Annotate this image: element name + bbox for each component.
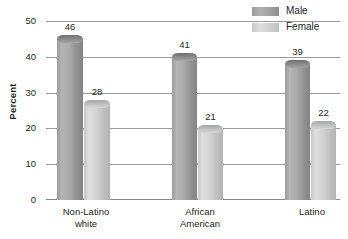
legend-item-male[interactable]: Male (252, 4, 344, 18)
bar-male-african-american[interactable]: 41 (172, 53, 197, 200)
bar-value-label: 21 (205, 112, 216, 122)
y-tick-0: 0 (2, 195, 36, 205)
bar-body (84, 104, 110, 200)
bar-value-label: 46 (65, 22, 76, 32)
legend-label-female: Female (286, 22, 319, 32)
bar-value-label: 41 (179, 40, 190, 50)
y-tick-40: 40 (2, 52, 36, 62)
bar-body (57, 39, 83, 200)
bar-female-latino[interactable]: 22 (311, 121, 336, 200)
category-label-line1: Non-Latino (44, 206, 128, 218)
bar-body (311, 125, 336, 200)
category-label-latino: Latino (270, 206, 348, 218)
y-axis-tick-labels: 50 40 30 20 10 0 (0, 21, 40, 200)
bar-body (285, 64, 310, 200)
bar-cap (198, 125, 223, 133)
bar-value-label: 22 (318, 108, 329, 118)
bar-male-latino[interactable]: 39 (285, 60, 310, 200)
y-tick-30: 30 (2, 88, 36, 98)
category-label-line1: African (158, 206, 242, 218)
category-label-african-american: African American (158, 206, 242, 229)
legend-swatch-male-icon (252, 7, 279, 16)
bar-cap (311, 121, 336, 129)
legend-label-male: Male (286, 6, 308, 16)
legend-item-female[interactable]: Female (252, 20, 344, 34)
bar-chart: Percent 50 40 30 20 10 0 46 28 (0, 0, 348, 239)
bar-cap (285, 60, 310, 68)
bar-body (172, 57, 197, 200)
y-tick-50: 50 (2, 16, 36, 26)
bar-value-label: 39 (292, 47, 303, 57)
y-tick-20: 20 (2, 124, 36, 134)
legend-swatch-female-icon (252, 23, 279, 32)
category-label-line1: Latino (270, 206, 348, 218)
bar-cap (57, 35, 83, 43)
category-label-line2: white (44, 218, 128, 230)
legend: Male Female (252, 4, 344, 36)
bar-cap (84, 100, 110, 108)
bar-value-label: 28 (92, 87, 103, 97)
y-tick-10: 10 (2, 159, 36, 169)
bar-female-african-american[interactable]: 21 (198, 125, 223, 200)
bar-body (198, 129, 223, 200)
bar-female-non-latino-white[interactable]: 28 (84, 100, 110, 200)
bar-cap (172, 53, 197, 61)
category-label-non-latino-white: Non-Latino white (44, 206, 128, 229)
category-label-line2: American (158, 218, 242, 230)
plot-area: 46 28 41 21 39 22 (46, 21, 340, 200)
bar-male-non-latino-white[interactable]: 46 (57, 35, 83, 200)
